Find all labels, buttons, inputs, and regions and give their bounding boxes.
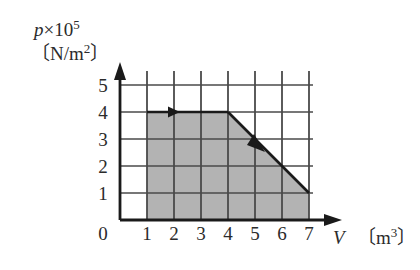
- y-tick-label-2: 2: [98, 156, 108, 177]
- x-axis-arrowhead-icon: [324, 214, 342, 226]
- x-axis-unit-label: 〔m3〕: [357, 225, 416, 248]
- x-axis-unit-open-bracket: 〔: [357, 227, 376, 248]
- x-axis-unit-text: m: [376, 227, 391, 248]
- x-tick-labels: 1 2 3 4 5 6 7: [142, 223, 314, 244]
- y-tick-label-1: 1: [98, 183, 108, 204]
- x-tick-label-7: 7: [304, 223, 314, 244]
- x-axis-quantity-symbol: V: [333, 227, 347, 248]
- y-axis-exponent-text: 5: [73, 17, 80, 32]
- y-axis-multiplier-text: ×10: [44, 19, 74, 40]
- x-tick-label-1: 1: [142, 223, 152, 244]
- y-axis-label-group: p×105 〔N/m2〕: [31, 17, 109, 64]
- y-tick-label-3: 3: [98, 129, 108, 150]
- x-axis-unit-close-bracket: 〕: [397, 227, 416, 248]
- x-tick-label-4: 4: [223, 223, 233, 244]
- y-axis-unit-text: N/m: [50, 43, 84, 64]
- y-tick-labels: 5 4 3 2 1: [98, 75, 108, 204]
- x-tick-label-6: 6: [277, 223, 287, 244]
- x-tick-label-2: 2: [169, 223, 179, 244]
- x-axis-label-group: V 〔m3〕: [333, 225, 416, 248]
- y-axis-arrowhead-icon: [114, 62, 126, 80]
- pv-diagram-svg: p×105 〔N/m2〕: [0, 0, 420, 270]
- y-tick-label-5: 5: [98, 75, 108, 96]
- x-tick-label-3: 3: [196, 223, 206, 244]
- y-axis-unit-close-bracket: 〕: [90, 43, 109, 64]
- y-axis-unit-label: 〔N/m2〕: [31, 41, 109, 64]
- y-axis-quantity-label: p×105: [32, 17, 80, 40]
- origin-label: 0: [98, 223, 108, 244]
- y-tick-label-4: 4: [98, 102, 108, 123]
- x-axis-quantity-label: V: [333, 227, 347, 248]
- y-axis-unit-open-bracket: 〔: [31, 43, 50, 64]
- x-tick-label-5: 5: [250, 223, 260, 244]
- y-axis-quantity-symbol: p: [32, 19, 44, 40]
- pv-diagram-figure: p×105 〔N/m2〕: [0, 0, 420, 270]
